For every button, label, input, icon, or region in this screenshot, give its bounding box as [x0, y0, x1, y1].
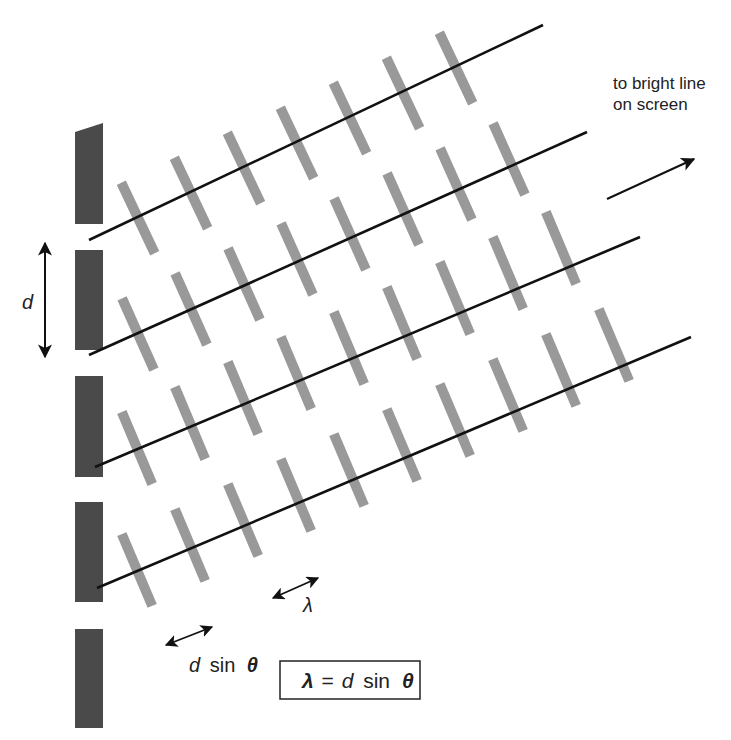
path-difference-theta: θ — [247, 654, 258, 676]
wavefront-bar — [281, 459, 311, 531]
grating-slits — [75, 123, 103, 728]
equation-theta: θ — [402, 669, 414, 692]
wavefront-bar — [228, 484, 258, 556]
wavefront-bar — [439, 33, 472, 103]
path-difference-sin: sin — [210, 654, 236, 676]
ray-line — [89, 25, 543, 240]
wavefront-bar — [280, 108, 313, 178]
slit-bar — [75, 123, 103, 224]
wavefront-bar — [333, 83, 366, 153]
wavefront-bar — [228, 362, 258, 434]
wavefronts — [121, 33, 629, 606]
diffraction-grating-diagram: d to bright line on screen λ d sin θ λ =… — [0, 0, 731, 740]
wavefront-bar — [334, 434, 364, 506]
slit-bar — [75, 629, 103, 728]
wavefront-bar — [440, 262, 470, 334]
wavefront-bar — [386, 58, 419, 128]
path-difference-arrow — [166, 627, 212, 645]
ray-line — [97, 337, 691, 588]
wavefront-bar — [281, 337, 311, 409]
equation-lambda: λ — [301, 669, 314, 692]
wavefront-bar — [228, 248, 260, 319]
slit-bar — [75, 250, 103, 350]
slit-spacing-label: d — [22, 291, 34, 313]
wavefront-bar — [440, 384, 470, 456]
wavefront-bar — [493, 123, 525, 194]
wavelength-label: λ — [302, 594, 313, 616]
equation-sin: sin — [363, 669, 390, 692]
equation-equals: = — [322, 669, 334, 692]
slit-bar — [75, 376, 103, 477]
direction-label-line1: to bright line — [613, 74, 706, 93]
wavefront-bar — [546, 212, 576, 284]
wavefront-bar — [387, 287, 417, 359]
direction-arrow — [607, 159, 694, 199]
path-difference-d: d — [189, 654, 201, 676]
equation-d: d — [342, 669, 355, 692]
wavefront-bar — [387, 409, 417, 481]
wavefront-bar — [334, 312, 364, 384]
path-difference-label: d sin θ — [189, 654, 258, 676]
wavefront-bar — [440, 148, 472, 219]
direction-label-line2: on screen — [613, 95, 688, 114]
wavefront-bar — [281, 223, 313, 294]
